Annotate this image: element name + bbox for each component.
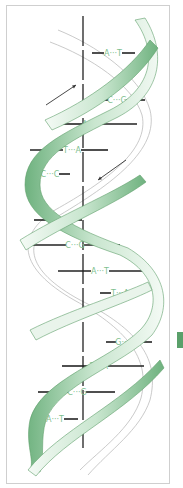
base-pair-label: A···T [104, 49, 122, 58]
helix-svg: A···TC···GA···TT···AC···CC···GC···GA···T… [0, 0, 183, 488]
base-pair: A···T [58, 267, 148, 276]
green-marker [177, 332, 183, 348]
base-pair-label: C···C [41, 170, 60, 179]
strand-direction-down-arrow-icon [98, 160, 126, 180]
base-pair-label: T···A [62, 146, 82, 155]
base-pair-label: A···T [46, 415, 64, 424]
base-pair-label: C···G [65, 241, 84, 250]
base-pair: A···T [92, 49, 135, 58]
base-pair-label: A···T [91, 267, 109, 276]
dna-diagram: A···TC···GA···TT···AC···CC···GC···GA···T… [0, 0, 183, 488]
strand-direction-up-arrow-icon [46, 85, 76, 105]
